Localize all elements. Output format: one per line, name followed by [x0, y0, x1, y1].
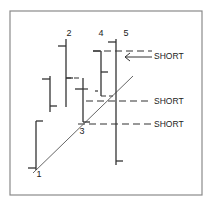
price-bar: [58, 39, 73, 107]
short-level: SHORT: [86, 96, 184, 106]
bar-label: 4: [98, 28, 103, 38]
price-bars: [28, 39, 123, 170]
price-bar: [108, 39, 123, 165]
short-label: SHORT: [154, 51, 184, 61]
bar-label: 5: [123, 28, 128, 38]
bar-label: 3: [79, 126, 84, 136]
price-bar: [93, 51, 108, 96]
price-bar: [28, 121, 43, 170]
price-bar-chart: SHORTSHORTSHORT 12345: [0, 0, 211, 208]
bar-label: 1: [36, 169, 41, 179]
short-label: SHORT: [154, 96, 184, 106]
short-levels: SHORTSHORTSHORT: [78, 51, 184, 129]
price-bar: [75, 78, 90, 122]
bar-connector-dashes: [66, 78, 113, 96]
bar-label: 2: [66, 28, 71, 38]
short-level: SHORT: [93, 51, 184, 61]
short-level: SHORT: [78, 119, 184, 129]
short-label: SHORT: [154, 119, 184, 129]
price-bar: [42, 76, 57, 112]
